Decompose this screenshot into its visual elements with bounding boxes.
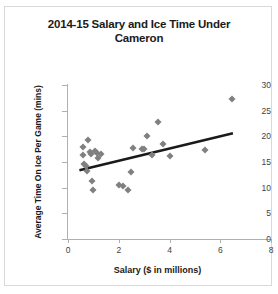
x-tick-label: 6 <box>208 245 232 255</box>
x-tick-mark <box>170 239 171 243</box>
x-tick-label: 2 <box>107 245 131 255</box>
chart-title: 2014-15 Salary and Ice Time Under Camero… <box>23 17 255 45</box>
y-tick-mark <box>62 111 67 112</box>
y-tick-mark <box>62 188 67 189</box>
x-axis-title: Salary ($ in millions) <box>45 265 270 275</box>
y-tick-mark <box>62 85 67 86</box>
chart-frame: 2014-15 Salary and Ice Time Under Camero… <box>4 6 272 286</box>
trend-line <box>68 85 271 239</box>
plot-area <box>68 85 271 239</box>
x-tick-label: 0 <box>56 245 80 255</box>
x-tick-label: 8 <box>259 245 278 255</box>
x-tick-mark <box>220 239 221 243</box>
y-axis-title: Average Time On Ice Per Game (mins) <box>33 82 43 242</box>
y-tick-mark <box>62 239 67 240</box>
x-tick-mark <box>119 239 120 243</box>
y-tick-mark <box>62 136 67 137</box>
y-tick-mark <box>62 213 67 214</box>
y-tick-mark <box>62 162 67 163</box>
x-tick-mark <box>271 239 272 243</box>
x-tick-mark <box>68 239 69 243</box>
x-tick-label: 4 <box>158 245 182 255</box>
